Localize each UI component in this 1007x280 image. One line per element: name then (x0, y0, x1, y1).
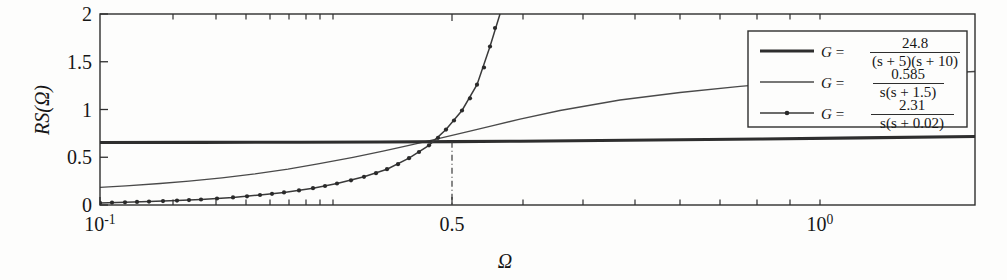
legend-numerator-0: 24.8 (902, 35, 928, 51)
x-tick-label-half: 0.5 (440, 213, 465, 235)
y-tick-label-2: 1 (82, 99, 92, 121)
legend-numerator-2: 2.31 (899, 97, 925, 113)
legend-numerator-1: 0.585 (891, 66, 925, 82)
y-tick-label-3: 1.5 (67, 51, 92, 73)
chart-svg: 0 0.5 1 1.5 2 10-1 0.5 100 RS(Ω) Ω G= 24… (0, 0, 1007, 280)
figure-page: 0 0.5 1 1.5 2 10-1 0.5 100 RS(Ω) Ω G= 24… (0, 0, 1007, 280)
x-axis-title: Ω (498, 250, 512, 272)
x-tick-label-decade-minus1: 10-1 (84, 212, 115, 235)
legend-swatch-marker-dot (785, 111, 790, 116)
legend-denominator-2: s(s + 0.02) (880, 115, 944, 132)
y-axis-title: RS(Ω) (31, 85, 54, 136)
y-tick-label-4: 2 (82, 3, 92, 25)
legend[interactable]: G= 24.8 (s + 5)(s + 10) G= 0.585 s(s + 1… (748, 31, 967, 132)
x-tick-label-decade-0: 100 (807, 212, 834, 235)
y-tick-label-1: 0.5 (67, 146, 92, 168)
